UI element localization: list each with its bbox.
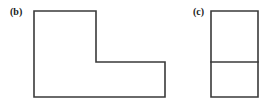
geometry-figure: (b) (c) xyxy=(0,0,270,104)
l-shape-polygon xyxy=(34,11,165,97)
shapes-canvas xyxy=(0,0,270,104)
rectangle-shape xyxy=(211,11,258,97)
